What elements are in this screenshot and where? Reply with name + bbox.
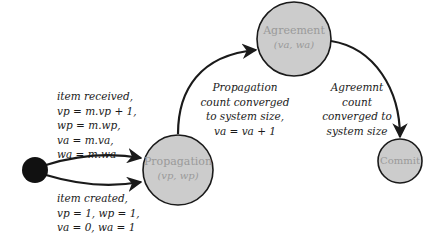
label-propagation-converged: Propagation count converged to system si… — [190, 80, 300, 138]
label-line: system size — [322, 124, 392, 139]
label-line: item received, — [57, 89, 137, 104]
state-diagram: Propagation (vp, wp) Agreement (va, wa) … — [0, 0, 443, 241]
label-item-created: item created, vp = 1, wp = 1, va = 0, wa… — [57, 191, 140, 235]
label-line: wp = m.wp, — [57, 118, 137, 133]
label-line: count converged — [190, 95, 300, 110]
label-line: vp = 1, wp = 1, — [57, 206, 140, 221]
label-line: va = 0, wa = 1 — [57, 220, 140, 235]
label-line: count — [322, 95, 392, 110]
propagation-title: Propagation — [138, 155, 218, 169]
commit-node-label: Commit — [376, 154, 424, 168]
label-line: vp = m.vp + 1, — [57, 104, 137, 119]
label-item-received: item received, vp = m.vp + 1, wp = m.wp,… — [57, 89, 137, 162]
label-line: converged to — [322, 109, 392, 124]
label-line: va = m.va, — [57, 133, 137, 148]
label-line: va = va + 1 — [190, 124, 300, 139]
propagation-vars: (vp, wp) — [138, 169, 218, 183]
label-line: Propagation — [190, 80, 300, 95]
propagation-node-label: Propagation (vp, wp) — [138, 155, 218, 183]
label-line: item created, — [57, 191, 140, 206]
initial-state-node — [22, 157, 48, 183]
agreement-vars: (va, wa) — [254, 38, 334, 52]
agreement-title: Agreement — [254, 24, 334, 38]
label-agreement-converged: Agreemnt count converged to system size — [322, 80, 392, 138]
edge-item-created — [46, 175, 141, 185]
commit-title: Commit — [376, 154, 424, 168]
label-line: to system size, — [190, 109, 300, 124]
agreement-node-label: Agreement (va, wa) — [254, 24, 334, 52]
label-line: wa = m.wa — [57, 147, 137, 162]
label-line: Agreemnt — [322, 80, 392, 95]
